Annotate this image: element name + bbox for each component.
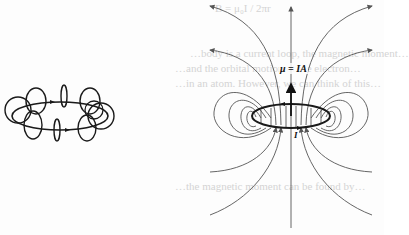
field-line xyxy=(306,128,372,172)
field-line xyxy=(210,50,276,125)
field-line xyxy=(301,128,372,215)
field-line xyxy=(210,128,276,172)
current-label: I xyxy=(293,130,299,141)
field-line xyxy=(326,111,335,126)
field-line xyxy=(306,50,372,125)
magnetic-moment-label: μ = IA xyxy=(279,63,308,74)
current-direction-arrow xyxy=(280,102,285,106)
field-line xyxy=(214,92,271,137)
field-line xyxy=(247,111,256,126)
field-line xyxy=(210,128,281,215)
field-line xyxy=(311,92,368,137)
